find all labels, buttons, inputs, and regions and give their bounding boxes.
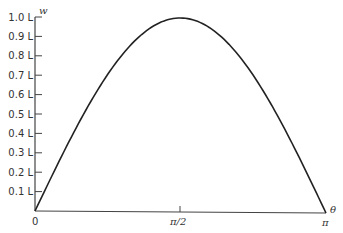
x-tick-label-pi-half: π/2 (169, 216, 186, 227)
y-tick-label: 0.9 L (8, 31, 33, 42)
y-tick-label: 0.2 L (8, 167, 33, 178)
y-tick-label: 1.0 L (8, 12, 33, 23)
y-tick-label: 0.5 L (8, 109, 33, 120)
y-axis-ticks: 0.1 L0.2 L0.3 L0.4 L0.5 L0.6 L0.7 L0.8 L… (8, 12, 42, 198)
x-tick-label-0: 0 (32, 216, 38, 227)
chart: 0.1 L0.2 L0.3 L0.4 L0.5 L0.6 L0.7 L0.8 L… (0, 0, 343, 233)
y-tick-label: 0.1 L (8, 186, 33, 197)
x-axis-label: θ (330, 204, 336, 215)
y-tick-label: 0.6 L (8, 89, 33, 100)
y-tick-label: 0.3 L (8, 147, 33, 158)
y-tick-label: 0.7 L (8, 70, 33, 81)
x-tick-label-pi: π (321, 217, 329, 228)
y-tick-label: 0.8 L (8, 50, 33, 61)
y-tick-label: 0.4 L (8, 128, 33, 139)
data-line (35, 18, 326, 213)
y-axis-label: w (39, 5, 48, 16)
